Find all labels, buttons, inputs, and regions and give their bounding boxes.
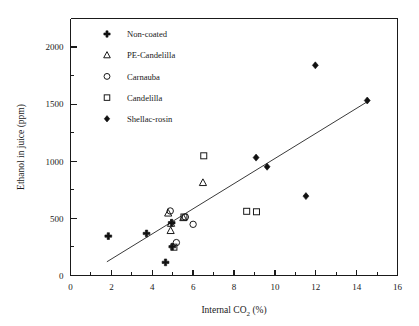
chart-canvas: 0246810121416 0500100015002000 Non-coate… [0, 0, 419, 326]
legend-label: Carnauba [127, 72, 160, 82]
legend-label: Shellac-rosin [127, 114, 173, 124]
y-tick-label: 2000 [46, 42, 65, 52]
scatter-chart-figure: 0246810121416 0500100015002000 Non-coate… [0, 0, 419, 326]
y-tick-label: 500 [50, 214, 64, 224]
x-tick-label: 12 [311, 282, 320, 292]
legend-label: PE-Candelilla [127, 50, 175, 60]
x-tick-label: 16 [393, 282, 403, 292]
legend-label: Non-coated [127, 29, 168, 39]
legend-label: Candelilla [127, 93, 163, 103]
x-tick-label: 8 [232, 282, 237, 292]
x-tick-label: 0 [68, 282, 73, 292]
x-tick-label: 6 [191, 282, 196, 292]
x-tick-label: 14 [352, 282, 362, 292]
x-tick-label: 4 [150, 282, 155, 292]
y-axis-title: Ethanol in juice (ppm) [16, 104, 27, 190]
y-tick-label: 1000 [46, 157, 65, 167]
x-tick-label: 10 [270, 282, 280, 292]
y-tick-label: 1500 [46, 99, 65, 109]
x-tick-label: 2 [109, 282, 114, 292]
y-tick-label: 0 [59, 271, 64, 281]
